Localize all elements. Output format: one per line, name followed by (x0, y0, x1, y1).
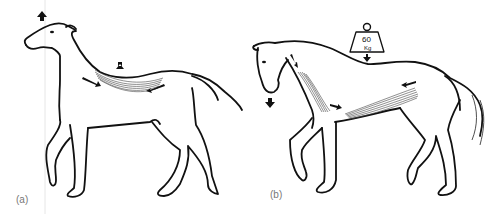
weight-icon: 60 Kg (350, 24, 384, 53)
neck-muscle-fibers (298, 72, 330, 112)
abdominal-arrow-left-icon (330, 104, 342, 110)
horse-b-illustration: 60 Kg (250, 0, 504, 214)
panel-b-label: (b) (270, 189, 282, 200)
horse-a-body-outline (25, 23, 242, 110)
abdominal-arrow-right-icon (401, 81, 416, 88)
back-muscle-arrow-left-icon (82, 77, 101, 87)
weight-unit: Kg (364, 45, 371, 51)
abdominal-muscle-fibers (345, 88, 418, 119)
horse-a-illustration (0, 0, 250, 214)
panel-a: (a) (0, 0, 250, 214)
eye-icon (262, 61, 266, 63)
head-down-arrow-icon (265, 98, 275, 108)
eye-icon (50, 31, 54, 33)
weight-value: 60 (362, 35, 371, 44)
weight-down-arrow-icon (363, 54, 371, 62)
horse-b-body-outline (254, 41, 482, 136)
panel-b: 60 Kg (b) (250, 0, 504, 214)
back-down-arrow-icon (116, 62, 124, 69)
panel-a-label: (a) (16, 194, 28, 205)
